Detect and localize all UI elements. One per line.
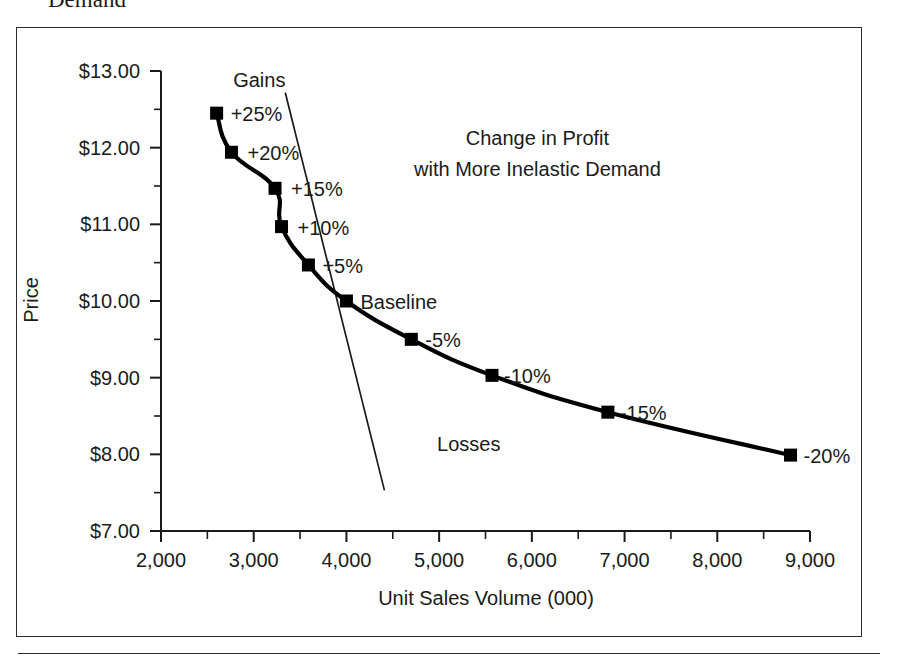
y-axis-tick-labels: $7.00$8.00$9.00$10.00$11.00$12.00$13.00 [79,60,140,542]
annotation-callout-line-2: with More Inelastic Demand [413,158,661,180]
data-point-marker [485,369,498,382]
data-point-label: +20% [247,142,299,164]
data-point-marker [601,406,614,419]
x-tick-label: 2,000 [136,549,186,571]
data-point-label: +15% [291,178,343,200]
x-tick-label: 6,000 [507,549,557,571]
data-point-label: -10% [504,365,551,387]
annotation-gains: Gains [233,69,285,91]
data-point-marker [405,333,418,346]
x-tick-label: 5,000 [414,549,464,571]
y-tick-label: $10.00 [79,290,140,312]
data-point-marker [275,220,288,233]
x-tick-label: 4,000 [321,549,371,571]
data-point-label: -5% [425,329,461,351]
y-tick-label: $7.00 [90,520,140,542]
y-axis-title: Price [20,277,42,323]
y-tick-label: $9.00 [90,367,140,389]
data-point-marker [225,146,238,159]
data-point-marker [269,182,282,195]
y-tick-label: $12.00 [79,137,140,159]
x-axis-tick-labels: 2,0003,0004,0005,0006,0007,0008,0009,000 [136,549,835,571]
data-point-label: Baseline [360,291,437,313]
data-point-label: -15% [620,402,667,424]
data-point-marker [784,449,797,462]
y-tick-label: $8.00 [90,443,140,465]
y-tick-label: $11.00 [80,213,140,235]
x-axis-title: Unit Sales Volume (000) [378,587,594,609]
data-point-marker [340,295,353,308]
data-point-marker [210,107,223,120]
x-tick-label: 7,000 [600,549,650,571]
data-point-label: -20% [804,445,851,467]
figure-page: Demand $7.00$8.00$9.00$10.00$11.00$12.00… [0,0,898,664]
data-point-label: +25% [231,103,283,125]
annotation-losses: Losses [437,433,500,455]
data-point-marker [302,258,315,271]
x-tick-label: 8,000 [692,549,742,571]
data-point-label: +5% [322,255,363,277]
annotation-callout-line-1: Change in Profit [466,127,610,149]
x-tick-label: 3,000 [229,549,279,571]
x-tick-label: 9,000 [785,549,835,571]
y-tick-label: $13.00 [79,60,140,82]
data-point-label: +10% [298,217,350,239]
chart-annotations: GainsLossesChange in Profitwith More Ine… [233,69,661,454]
price-volume-chart: $7.00$8.00$9.00$10.00$11.00$12.00$13.00 … [0,0,898,664]
